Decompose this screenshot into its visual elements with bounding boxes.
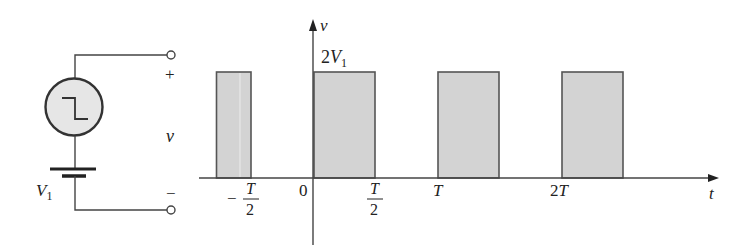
tick-neg-half-T: − T 2: [227, 180, 259, 218]
svg-text:2: 2: [246, 201, 254, 218]
circuit: V1 + − v: [36, 51, 176, 214]
pulse-1: [438, 72, 499, 178]
tick-half-T: T 2: [367, 180, 383, 218]
svg-text:T: T: [246, 180, 256, 197]
tick-2T: 2T: [550, 181, 570, 200]
y-axis-arrow-icon: [309, 19, 317, 31]
voltage-label: v: [166, 126, 174, 146]
pulse-neg: [217, 72, 252, 178]
minus-label: −: [166, 184, 176, 203]
square-wave-source-icon: [46, 79, 103, 136]
wire-bottom: [75, 176, 167, 210]
wire-top: [75, 55, 167, 79]
svg-text:2: 2: [370, 201, 378, 218]
x-axis-arrow-icon: [708, 174, 719, 182]
svg-text:T: T: [370, 180, 380, 197]
terminal-positive: [167, 51, 175, 59]
waveform-plot: v t 2V1 0 − T 2 T 2 T 2T: [199, 16, 719, 245]
pulse-2: [562, 72, 623, 178]
figure: V1 + − v v t 2V1 0 − T 2: [0, 0, 749, 251]
amplitude-label: 2V1: [321, 47, 347, 70]
battery-label: V1: [36, 181, 52, 203]
plus-label: +: [165, 65, 175, 84]
tick-origin: 0: [299, 181, 308, 200]
terminal-negative: [167, 206, 175, 214]
tick-T: T: [433, 181, 444, 200]
svg-text:−: −: [227, 189, 237, 208]
pulse-0: [314, 72, 375, 178]
y-axis-label: v: [320, 16, 328, 35]
x-axis-label: t: [709, 184, 715, 203]
